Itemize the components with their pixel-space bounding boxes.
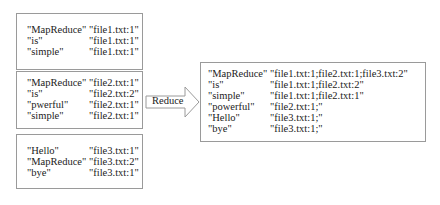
value: "file3.txt:1;" bbox=[270, 112, 323, 123]
key: "simple" bbox=[27, 46, 64, 57]
value: "file3.txt:2" bbox=[89, 156, 139, 167]
key: "bye" bbox=[208, 123, 232, 134]
key: "bye" bbox=[27, 167, 51, 178]
value: "file1.txt:1" bbox=[89, 46, 139, 57]
reduce-output-box: "MapReduce" "file1.txt:1;file2.txt:1;fil… bbox=[200, 62, 426, 142]
reduce-label: Reduce bbox=[152, 95, 184, 106]
key: "simple" bbox=[27, 110, 64, 121]
value: "file1.txt:1;file2.txt:2" bbox=[270, 79, 364, 90]
key: "is" bbox=[208, 79, 224, 90]
value: "file1.txt:1;file2.txt:1" bbox=[270, 90, 364, 101]
value: "file2.txt:1;" bbox=[270, 101, 323, 112]
key: "MapReduce" bbox=[27, 77, 86, 88]
map-output-box-file1: "MapReduce" "file1.txt:1" "is" "file1.tx… bbox=[16, 13, 143, 70]
value: "file3.txt:1" bbox=[89, 145, 139, 156]
key: "pwerful" bbox=[27, 99, 68, 110]
value: "file2.txt:1" bbox=[89, 77, 139, 88]
map-output-box-file3: "Hello" "file3.txt:1" "MapReduce" "file3… bbox=[16, 134, 143, 189]
value: "file2.txt:1" bbox=[89, 99, 139, 110]
key: "MapReduce" bbox=[27, 24, 86, 35]
value: "file1.txt:1" bbox=[89, 35, 139, 46]
key: "Hello" bbox=[208, 112, 240, 123]
value: "file1.txt:1" bbox=[89, 24, 139, 35]
key: "is" bbox=[27, 35, 43, 46]
value: "file3.txt:1;" bbox=[270, 123, 323, 134]
key: "MapReduce" bbox=[27, 156, 86, 167]
key: "is" bbox=[27, 88, 43, 99]
key: "simple" bbox=[208, 90, 245, 101]
value: "file1.txt:1;file2.txt:1;file3.txt:2" bbox=[270, 68, 408, 79]
value: "file2.txt:2" bbox=[89, 88, 139, 99]
key: "Hello" bbox=[27, 145, 59, 156]
map-output-box-file2: "MapReduce" "file2.txt:1" "is" "file2.tx… bbox=[16, 71, 143, 129]
value: "file3.txt:1" bbox=[89, 167, 139, 178]
key: "powerful" bbox=[208, 101, 254, 112]
key: "MapReduce" bbox=[208, 68, 267, 79]
value: "file2.txt:1" bbox=[89, 110, 139, 121]
